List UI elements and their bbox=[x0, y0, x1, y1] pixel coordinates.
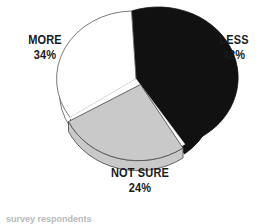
slice-label-more-name: MORE bbox=[16, 33, 74, 48]
slice-label-not-sure-name: NOT SURE bbox=[98, 166, 182, 181]
slice-label-less: LESS 42% bbox=[208, 33, 259, 63]
slice-label-not-sure-percent: 24% bbox=[98, 181, 182, 196]
slice-label-more: MORE 34% bbox=[16, 33, 74, 63]
slice-label-less-percent: 42% bbox=[208, 48, 259, 63]
slice-label-more-percent: 34% bbox=[16, 48, 74, 63]
pie-chart-figure: MORE 34% LESS 42% NOT SURE 24% survey re… bbox=[0, 0, 271, 224]
figure-caption-clipped: survey respondents bbox=[6, 215, 236, 224]
slice-label-not-sure: NOT SURE 24% bbox=[98, 166, 182, 196]
slice-label-less-name: LESS bbox=[208, 33, 259, 48]
